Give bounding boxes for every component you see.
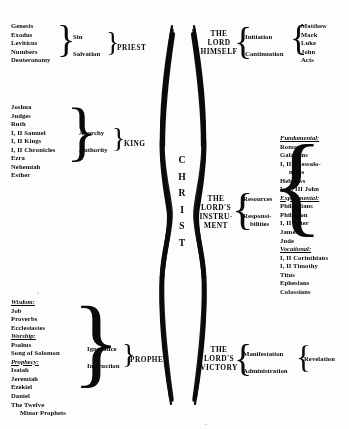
book-item: James: [280, 228, 349, 237]
book-item: I, II Peter: [280, 219, 349, 228]
book-item: nians: [280, 168, 349, 177]
book-section-heading: Fundamental:: [280, 134, 349, 143]
book-item: The Twelve: [11, 401, 85, 410]
book-item: Jude: [280, 237, 349, 246]
book-item: Philemon: [280, 211, 349, 220]
book-item: Esther: [11, 171, 81, 180]
brace-prophet-books: }: [72, 292, 120, 392]
book-item: I, II Thessalo-: [280, 160, 349, 169]
book-section-heading: Experimental:: [280, 194, 349, 203]
book-section-heading: Vocational:: [280, 245, 349, 254]
book-list-lords-victory: Revelation: [304, 355, 349, 364]
book-item: Hebrews: [280, 177, 349, 186]
book-item: Acts: [301, 56, 347, 65]
christ-letter: H: [146, 169, 218, 186]
book-item: Philippians: [280, 202, 349, 211]
christ-letter: C: [146, 152, 218, 169]
bible-overview-diagram: Genesis Exodus Leviticus Numbers Deutero…: [0, 0, 349, 429]
book-item: Colossians: [280, 288, 349, 297]
book-item: Ephesians: [280, 279, 349, 288]
book-item: Matthew: [301, 22, 347, 31]
book-item: John: [301, 48, 347, 57]
book-list-lord-himself: Matthew Mark Luke John Acts: [301, 22, 347, 65]
book-item: I, II, III John: [280, 185, 349, 194]
book-item: Titus: [280, 271, 349, 280]
book-item: I, II Timothy: [280, 262, 349, 271]
book-item: Mark: [301, 31, 347, 40]
book-item: I, II Corinthians: [280, 254, 349, 263]
office-label-king: KING: [124, 140, 145, 149]
scan-speck: [37, 292, 39, 294]
christ-letter: T: [146, 235, 218, 252]
book-item: Romans: [280, 143, 349, 152]
book-item: Galatians: [280, 151, 349, 160]
book-item: Luke: [301, 39, 347, 48]
book-item: Revelation: [304, 355, 349, 364]
book-list-lords-instrument: Fundamental: Romans Galatians I, II Thes…: [280, 134, 349, 296]
office-label-priest: PRIEST: [117, 44, 146, 53]
book-item: Minor Prophets: [11, 409, 85, 418]
